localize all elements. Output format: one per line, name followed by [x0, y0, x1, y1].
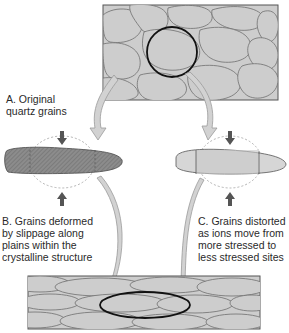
flattened-grains-panel [5, 276, 274, 330]
quartz-deformation-diagram [0, 0, 289, 333]
flattened-grain-network [5, 276, 274, 330]
stress-arrow-down-icon [225, 131, 235, 145]
stress-arrow-up-icon [225, 192, 235, 206]
label-original-grains: A. Original quartz grains [6, 93, 67, 117]
distorted-core [196, 150, 258, 174]
original-grains-panel [103, 4, 278, 101]
original-grain-network [103, 4, 278, 101]
label-slippage-deformation: B. Grains deformed by slippage along pla… [2, 215, 93, 263]
stress-arrow-down-icon [57, 131, 67, 145]
deformed-grain-shape [5, 147, 123, 173]
label-ion-distortion: C. Grains distorted as ions move from mo… [198, 215, 286, 263]
deformed-grain-panel [5, 131, 123, 206]
stress-arrow-up-icon [57, 192, 67, 206]
